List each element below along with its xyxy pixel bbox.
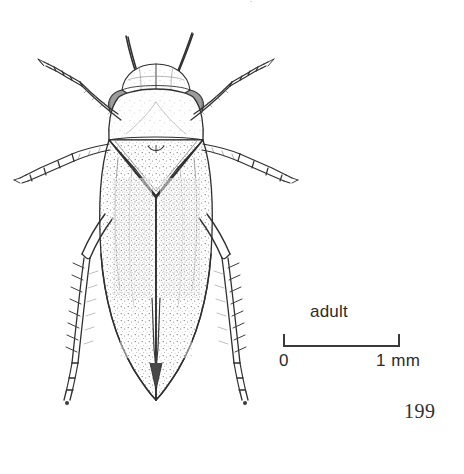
midleg-right <box>202 144 298 183</box>
figure-plate: adult 0 1 mm 199 <box>0 0 464 474</box>
scale-bar-min-label: 0 <box>279 351 288 371</box>
foreleg-right <box>191 59 274 120</box>
scale-bar-rule <box>283 334 400 350</box>
figure-page: . <box>0 0 464 474</box>
scale-bar: adult 0 1 mm <box>276 300 426 380</box>
page-number: 199 <box>404 400 436 423</box>
insect-dorsal-habitus-line-drawing <box>8 18 308 418</box>
pronotum <box>109 89 203 140</box>
scale-bar-caption: adult <box>310 302 348 322</box>
scale-bar-max-label: 1 mm <box>376 351 421 371</box>
midleg-left <box>14 144 110 183</box>
foreleg-left <box>38 59 121 120</box>
